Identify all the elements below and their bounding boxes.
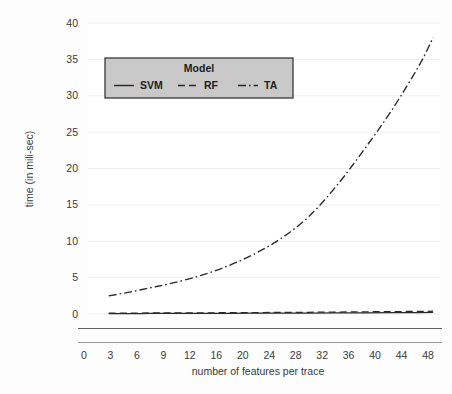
line-chart: 0510152025303540 03691216202428323640444…	[0, 0, 452, 394]
y-axis-title: time (in mili-sec)	[23, 131, 35, 207]
legend-title: Model	[184, 62, 214, 74]
y-tick-label: 0	[72, 308, 78, 320]
y-tick-label: 40	[66, 17, 78, 29]
x-tick-labels: 036912162024283236404448	[81, 349, 434, 361]
x-tick-label: 36	[343, 349, 355, 361]
x-tick-label: 32	[316, 349, 328, 361]
y-tick-label: 15	[66, 198, 78, 210]
x-tick-label: 6	[134, 349, 140, 361]
x-tick-label: 20	[237, 349, 249, 361]
y-tick-label: 10	[66, 235, 78, 247]
x-tick-label: 24	[263, 349, 275, 361]
x-tick-label: 28	[290, 349, 302, 361]
x-tick-label: 48	[422, 349, 434, 361]
x-tick-label: 40	[369, 349, 381, 361]
y-tick-label: 20	[66, 162, 78, 174]
x-tick-label: 12	[184, 349, 196, 361]
y-tick-label: 35	[66, 53, 78, 65]
x-axis-title: number of features per trace	[192, 365, 325, 377]
y-tick-label: 5	[72, 271, 78, 283]
legend-label-svm: SVM	[140, 79, 163, 91]
x-tick-label: 16	[210, 349, 222, 361]
x-tick-label: 44	[396, 349, 408, 361]
legend-label-ta: TA	[264, 79, 278, 91]
y-tick-label: 30	[66, 89, 78, 101]
y-tick-labels: 0510152025303540	[66, 17, 78, 320]
y-tick-label: 25	[66, 126, 78, 138]
chart-legend[interactable]: Model SVMRFTA	[105, 58, 293, 98]
chart-figure: 0510152025303540 03691216202428323640444…	[0, 0, 452, 394]
x-tick-label: 0	[81, 349, 87, 361]
x-tick-label: 9	[160, 349, 166, 361]
x-tick-label: 3	[108, 349, 114, 361]
legend-label-rf: RF	[204, 79, 219, 91]
